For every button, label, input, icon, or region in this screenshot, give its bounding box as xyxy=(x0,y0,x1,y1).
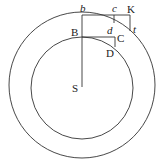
label-S: S xyxy=(72,82,78,94)
label-t: t xyxy=(133,23,137,35)
label-B: B xyxy=(71,26,78,38)
label-d: d xyxy=(107,24,113,36)
label-K: K xyxy=(127,3,135,15)
label-b: b xyxy=(80,2,86,14)
label-C: C xyxy=(117,32,124,44)
orbit-diagram: b c K B d C t D S xyxy=(0,0,165,165)
label-c: c xyxy=(112,2,117,14)
label-D: D xyxy=(106,47,114,59)
